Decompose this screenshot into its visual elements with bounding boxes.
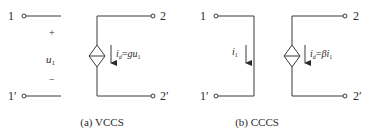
terminal-2-prime-node [151,94,155,98]
vccs-caption: (a) VCCS [80,116,124,129]
terminal-1-label: 1 [200,9,206,23]
terminal-2-prime-node [343,94,347,98]
output-bottom-wire [97,67,151,96]
control-voltage-label: u1 [46,53,56,67]
terminal-2-prime-label: 2′ [160,89,169,103]
terminal-1-label: 1 [8,9,14,23]
control-plus-sign: + [49,27,55,38]
terminal-1-node [22,14,26,18]
output-bottom-wire [292,67,343,96]
terminal-2-label: 2 [353,9,359,23]
source-current-equation: id=gu1 [116,48,140,60]
dependent-sources-diagram: 1 + u1 − 1′ 2 2′ id=gu1 (a) VCCS 1 1′ i1 [0,0,374,137]
cccs-caption: (b) CCCS [235,116,279,129]
terminal-1-node [214,14,218,18]
control-current-label: i1 [232,46,238,58]
terminal-1-prime-label: 1′ [200,89,209,103]
output-top-wire [292,16,343,45]
control-minus-sign: − [49,74,55,85]
terminal-2-prime-label: 2′ [353,89,362,103]
terminal-2-node [151,14,155,18]
terminal-1-prime-node [214,94,218,98]
terminal-1-prime-node [22,94,26,98]
terminal-2-label: 2 [160,9,166,23]
vccs-circuit: 1 + u1 − 1′ 2 2′ id=gu1 (a) VCCS [8,9,169,129]
cccs-circuit: 1 1′ i1 2 2′ id=βi1 (b) CCCS [200,9,362,129]
source-current-equation: id=βi1 [310,48,332,60]
terminal-2-node [343,14,347,18]
terminal-1-prime-label: 1′ [8,89,17,103]
output-top-wire [97,16,151,45]
